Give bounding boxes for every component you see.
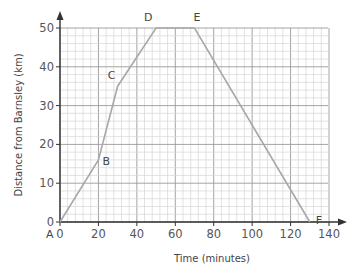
y-axis-label: Distance from Barnsley (km) (13, 53, 24, 196)
point-label-a: A (46, 228, 54, 241)
y-tick-label: 20 (39, 137, 54, 151)
point-label-c: C (108, 69, 116, 82)
x-tick-label: 40 (130, 227, 145, 241)
y-tick-label: 10 (39, 176, 54, 190)
y-tick-label: 50 (39, 21, 54, 35)
point-label-b: B (102, 155, 110, 168)
x-tick-label: 80 (206, 227, 221, 241)
journey-line (60, 28, 310, 222)
x-tick-label: 100 (241, 227, 263, 241)
x-tick-label: 20 (91, 227, 106, 241)
x-tick-label: 140 (318, 227, 340, 241)
x-tick-label: 60 (168, 227, 183, 241)
x-tick-label: 0 (56, 227, 63, 241)
y-tick-label: 40 (39, 60, 54, 74)
tick-labels: 02040608010012014001020304050 (39, 21, 340, 241)
x-axis-label: Time (minutes) (173, 253, 250, 264)
point-label-f: F (316, 214, 322, 227)
y-tick-label: 30 (39, 99, 54, 113)
point-label-d: D (144, 11, 152, 24)
x-tick-label: 120 (280, 227, 302, 241)
y-tick-label: 0 (47, 215, 54, 229)
point-label-e: E (194, 11, 201, 24)
distance-time-graph: 02040608010012014001020304050 ABCDEF Tim… (0, 0, 355, 275)
grid (60, 28, 329, 222)
